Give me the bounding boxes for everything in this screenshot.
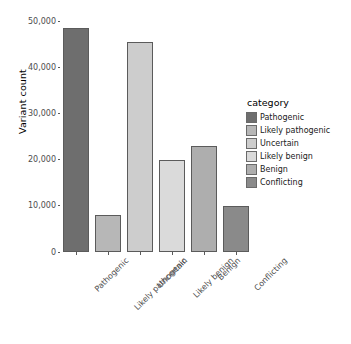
legend-swatch-icon <box>246 125 257 136</box>
x-axis-label: Conflicting <box>253 256 290 293</box>
legend-item[interactable]: Likely pathogenic <box>246 124 350 137</box>
bar <box>127 42 153 252</box>
x-axis-tick <box>236 252 237 255</box>
y-axis-tick: 0 <box>51 247 60 258</box>
y-axis-tick: 10,000 <box>28 200 60 211</box>
bar <box>191 146 217 252</box>
legend: category PathogenicLikely pathogenicUnce… <box>246 97 350 189</box>
x-axis-label: Pathogenic <box>93 256 131 294</box>
y-axis: Variant count 010,00020,00030,00040,0005… <box>0 0 60 344</box>
bar <box>63 28 89 252</box>
legend-item[interactable]: Uncertain <box>246 137 350 150</box>
y-axis-tick: 40,000 <box>28 62 60 73</box>
bar-chart: Variant count 010,00020,00030,00040,0005… <box>0 0 351 344</box>
x-axis-labels: PathogenicLikely pathogenicUncertainLike… <box>60 256 260 344</box>
x-axis-tick <box>76 252 77 255</box>
x-axis-tick <box>140 252 141 255</box>
legend-item-label: Uncertain <box>260 139 299 148</box>
legend-item[interactable]: Conflicting <box>246 176 350 189</box>
legend-swatch-icon <box>246 164 257 175</box>
legend-item-label: Conflicting <box>260 178 303 187</box>
x-axis-label: Uncertain <box>155 256 189 290</box>
bar <box>159 160 185 252</box>
legend-item-label: Benign <box>260 165 288 174</box>
legend-swatch-icon <box>246 138 257 149</box>
legend-item[interactable]: Likely benign <box>246 150 350 163</box>
y-axis-tick: 30,000 <box>28 108 60 119</box>
legend-swatch-icon <box>246 151 257 162</box>
legend-item[interactable]: Benign <box>246 163 350 176</box>
legend-items: PathogenicLikely pathogenicUncertainLike… <box>246 111 350 189</box>
legend-item-label: Likely benign <box>260 152 313 161</box>
bar <box>223 206 249 252</box>
legend-swatch-icon <box>246 177 257 188</box>
plot-panel <box>60 12 252 252</box>
y-axis-title: Variant count <box>17 42 28 162</box>
legend-item[interactable]: Pathogenic <box>246 111 350 124</box>
x-axis-tick <box>172 252 173 255</box>
legend-title: category <box>246 97 350 108</box>
legend-item-label: Likely pathogenic <box>260 126 330 135</box>
x-axis-tick <box>204 252 205 255</box>
x-axis-tick <box>108 252 109 255</box>
legend-item-label: Pathogenic <box>260 113 304 122</box>
bars-layer <box>60 12 252 252</box>
y-axis-tick: 20,000 <box>28 154 60 165</box>
legend-swatch-icon <box>246 112 257 123</box>
bar <box>95 215 121 252</box>
y-axis-tick: 50,000 <box>28 16 60 27</box>
